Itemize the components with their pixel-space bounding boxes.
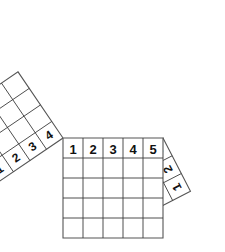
pythagorean-diagram: 1 2 3 4 1 2 3 bbox=[0, 0, 225, 252]
hypotenuse-cell-label-2: 2 bbox=[89, 142, 96, 157]
diagram-canvas: 1 2 3 4 1 2 3 bbox=[0, 0, 225, 252]
hypotenuse-cell-label-4: 4 bbox=[129, 142, 137, 157]
hypotenuse-cell-label-5: 5 bbox=[149, 142, 156, 157]
hypotenuse-cell-label-3: 3 bbox=[109, 142, 116, 157]
square-on-hypotenuse: 1 2 3 4 5 bbox=[63, 138, 163, 238]
square-on-long-leg: 1 2 3 4 bbox=[0, 72, 63, 183]
hypotenuse-cell-label-1: 1 bbox=[69, 142, 76, 157]
right-triangle bbox=[63, 70, 163, 138]
